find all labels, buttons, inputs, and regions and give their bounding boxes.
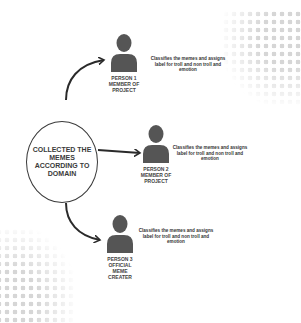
person-2-name: PERSON 2 MEMBER OF PROJECT: [136, 166, 176, 184]
center-node-label: COLLECTED THE MEMES ACCORDING TO DOMAIN: [30, 146, 94, 178]
person-2: PERSON 2 MEMBER OF PROJECT: [136, 125, 176, 184]
person-3-description: Classifies the memes and assigns label f…: [138, 228, 214, 245]
person-icon: [142, 125, 170, 165]
person-icon: [110, 34, 138, 74]
arrow-to-person-3: [66, 203, 100, 240]
center-node: COLLECTED THE MEMES ACCORDING TO DOMAIN: [26, 121, 98, 203]
person-3-name: PERSON 3 OFFICIAL MEME CREATER: [100, 256, 140, 280]
person-1: PERSON 1 MEMBER OF PROJECT: [104, 34, 144, 93]
person-2-description: Classifies the memes and assigns label f…: [172, 145, 248, 162]
person-icon: [106, 215, 134, 255]
person-1-description: Classifies the memes and assigns label f…: [150, 56, 226, 73]
person-1-name: PERSON 1 MEMBER OF PROJECT: [104, 75, 144, 93]
arrow-to-person-2: [98, 150, 140, 153]
person-3: PERSON 3 OFFICIAL MEME CREATER: [100, 215, 140, 280]
arrow-to-person-1: [66, 60, 104, 100]
